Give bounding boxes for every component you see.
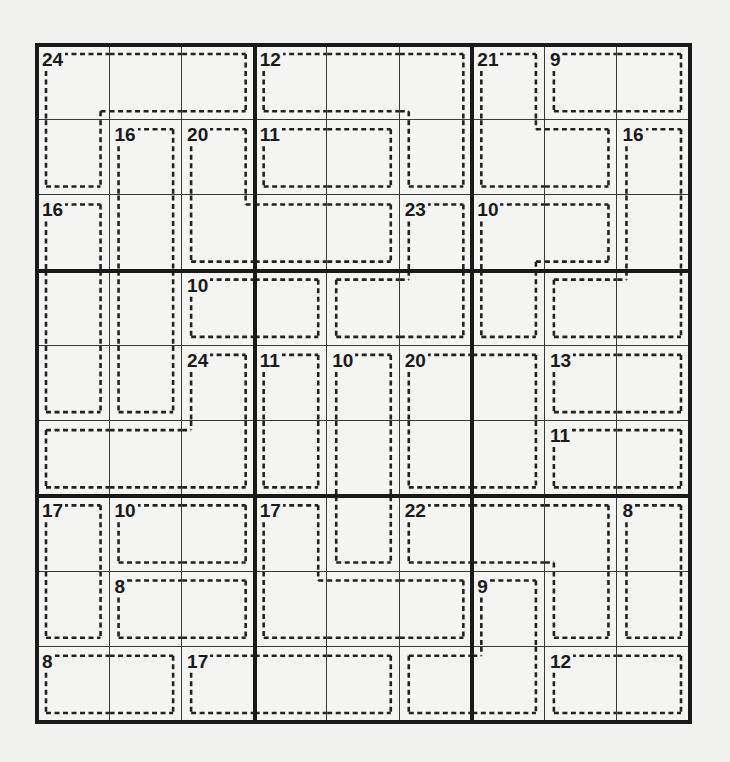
cell-r6c9[interactable] [617, 421, 690, 496]
cell-r8c3[interactable] [182, 572, 255, 647]
box-divider-horizontal [35, 494, 692, 498]
cage-sum-clue: 20 [405, 351, 428, 370]
cell-r8c4[interactable] [255, 572, 328, 647]
cell-r1c3[interactable] [182, 45, 255, 120]
cage-sum-clue: 23 [405, 200, 428, 219]
cell-r5c9[interactable] [617, 346, 690, 421]
cage-sum-clue: 16 [115, 125, 138, 144]
cage-sum-clue: 17 [187, 652, 210, 671]
cell-r2c8[interactable] [545, 120, 618, 195]
cell-r9c2[interactable] [110, 647, 183, 722]
box-divider-horizontal [35, 43, 692, 47]
box-divider-vertical [470, 43, 474, 724]
cell-r6c1[interactable] [37, 421, 110, 496]
cell-r9c5[interactable] [327, 647, 400, 722]
cell-r8c6[interactable] [400, 572, 473, 647]
cell-r2c5[interactable] [327, 120, 400, 195]
box-divider-horizontal [35, 720, 692, 724]
cell-r4c1[interactable] [37, 271, 110, 346]
cell-r8c5[interactable] [327, 572, 400, 647]
cage-sum-clue: 10 [187, 276, 210, 295]
cell-r3c8[interactable] [545, 195, 618, 270]
cage-sum-clue: 9 [550, 50, 563, 69]
cage-sum-clue: 22 [405, 501, 428, 520]
cell-r4c7[interactable] [472, 271, 545, 346]
cell-r2c1[interactable] [37, 120, 110, 195]
cell-r4c4[interactable] [255, 271, 328, 346]
cell-r3c2[interactable] [110, 195, 183, 270]
cell-r5c2[interactable] [110, 346, 183, 421]
cell-r9c4[interactable] [255, 647, 328, 722]
cell-r3c3[interactable] [182, 195, 255, 270]
cell-r6c6[interactable] [400, 421, 473, 496]
cell-r2c6[interactable] [400, 120, 473, 195]
box-divider-horizontal [35, 269, 692, 273]
cell-r7c7[interactable] [472, 496, 545, 571]
cell-r5c7[interactable] [472, 346, 545, 421]
cell-r6c7[interactable] [472, 421, 545, 496]
cell-r6c5[interactable] [327, 421, 400, 496]
cage-sum-clue: 13 [550, 351, 573, 370]
cell-r1c5[interactable] [327, 45, 400, 120]
cage-sum-clue: 16 [42, 200, 65, 219]
cage-sum-clue: 12 [550, 652, 573, 671]
cage-sum-clue: 12 [260, 50, 283, 69]
cell-r8c9[interactable] [617, 572, 690, 647]
cell-r3c4[interactable] [255, 195, 328, 270]
cell-r9c7[interactable] [472, 647, 545, 722]
cell-r1c2[interactable] [110, 45, 183, 120]
cell-r3c5[interactable] [327, 195, 400, 270]
cell-r8c8[interactable] [545, 572, 618, 647]
cell-r1c9[interactable] [617, 45, 690, 120]
cage-sum-clue: 11 [260, 351, 282, 370]
cage-sum-clue: 24 [42, 50, 65, 69]
cage-sum-clue: 17 [260, 501, 283, 520]
killer-sudoku-board: 2412219162011161623101024111020131117101… [37, 45, 690, 722]
box-divider-vertical [253, 43, 257, 724]
cell-r4c8[interactable] [545, 271, 618, 346]
cell-r7c3[interactable] [182, 496, 255, 571]
cage-sum-clue: 8 [622, 501, 635, 520]
box-divider-vertical [35, 43, 39, 724]
cage-sum-clue: 10 [332, 351, 355, 370]
cell-r7c8[interactable] [545, 496, 618, 571]
cell-r4c6[interactable] [400, 271, 473, 346]
cell-r3c9[interactable] [617, 195, 690, 270]
cage-sum-clue: 17 [42, 501, 65, 520]
cage-sum-clue: 10 [477, 200, 500, 219]
cage-sum-clue: 11 [550, 426, 572, 445]
cell-r9c6[interactable] [400, 647, 473, 722]
cell-r6c3[interactable] [182, 421, 255, 496]
cell-r7c5[interactable] [327, 496, 400, 571]
cell-r6c2[interactable] [110, 421, 183, 496]
cell-r6c4[interactable] [255, 421, 328, 496]
cage-sum-clue: 20 [187, 125, 210, 144]
cage-sum-clue: 24 [187, 351, 210, 370]
cage-sum-clue: 10 [115, 501, 138, 520]
cage-sum-clue: 16 [622, 125, 645, 144]
cage-sum-clue: 11 [260, 125, 282, 144]
cage-sum-clue: 9 [477, 577, 490, 596]
cell-r9c9[interactable] [617, 647, 690, 722]
cell-r4c9[interactable] [617, 271, 690, 346]
cell-r4c2[interactable] [110, 271, 183, 346]
cage-sum-clue: 21 [477, 50, 500, 69]
cell-r8c1[interactable] [37, 572, 110, 647]
cell-r4c5[interactable] [327, 271, 400, 346]
cage-sum-clue: 8 [42, 652, 55, 671]
cell-r5c1[interactable] [37, 346, 110, 421]
box-divider-vertical [688, 43, 692, 724]
cage-sum-clue: 8 [115, 577, 128, 596]
cell-r1c6[interactable] [400, 45, 473, 120]
cell-r2c7[interactable] [472, 120, 545, 195]
